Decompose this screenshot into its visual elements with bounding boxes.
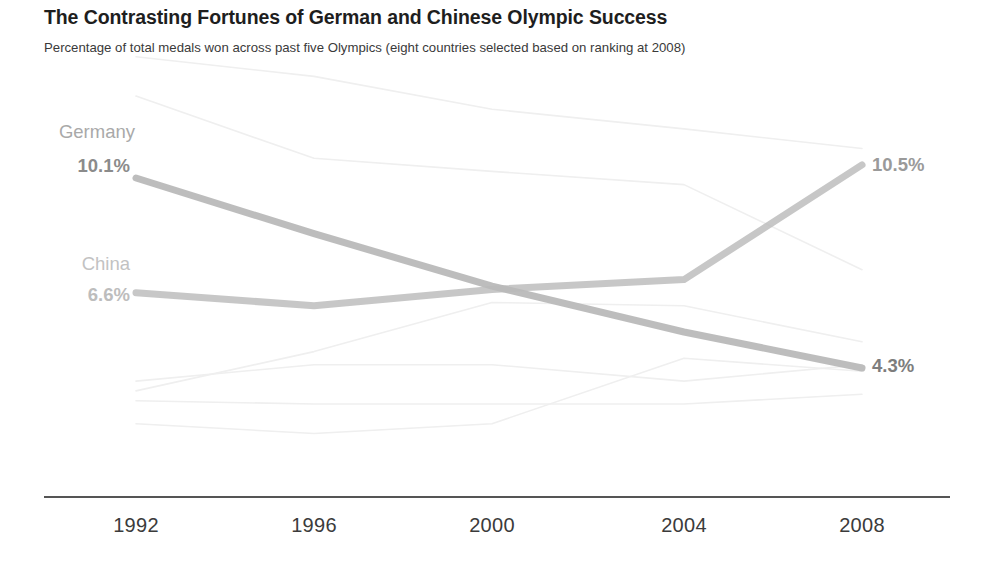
- series-label-china: China: [0, 253, 130, 275]
- series-line-germany: [136, 178, 862, 368]
- plot-area: [0, 0, 993, 581]
- x-axis-tick-1992: 1992: [76, 514, 196, 537]
- series-label-germany: Germany: [0, 121, 135, 143]
- chart-root: The Contrasting Fortunes of German and C…: [0, 0, 993, 581]
- series-line-japan: [136, 358, 862, 433]
- series-end-value-china: 10.5%: [872, 154, 924, 176]
- series-line-south-korea: [136, 394, 862, 404]
- series-start-value-china: 6.6%: [0, 284, 130, 306]
- background-series-group: [136, 57, 862, 434]
- x-axis-tick-1996: 1996: [254, 514, 374, 537]
- x-axis-tick-2004: 2004: [624, 514, 744, 537]
- x-axis-tick-2008: 2008: [802, 514, 922, 537]
- series-end-value-germany: 4.3%: [872, 355, 914, 377]
- series-line-russia: [136, 96, 862, 270]
- x-axis-tick-2000: 2000: [432, 514, 552, 537]
- series-start-value-germany: 10.1%: [0, 155, 130, 177]
- highlight-series-group: [136, 165, 862, 368]
